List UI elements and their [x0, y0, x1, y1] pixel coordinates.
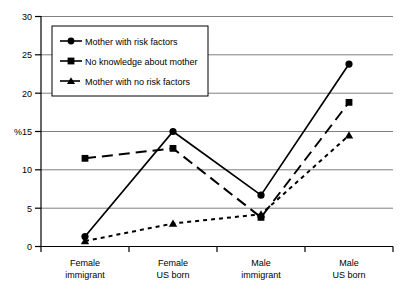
y-axis-title: %: [14, 127, 22, 137]
y-tick-label-0: 0: [27, 242, 32, 252]
circle-marker-icon: [345, 60, 352, 67]
circle-marker-icon: [169, 128, 176, 135]
y-tick-label-10: 10: [22, 165, 32, 175]
x-tick-label-0-line2: immigrant: [65, 270, 105, 280]
y-tick-label-5: 5: [27, 204, 32, 214]
square-marker-icon: [170, 145, 177, 152]
x-tick-label-3-line2: US born: [332, 270, 365, 280]
y-axis-ticks: [35, 17, 41, 247]
y-tick-label-20: 20: [22, 89, 32, 99]
circle-marker-icon: [68, 38, 75, 45]
y-tick-label-15: 15: [22, 127, 32, 137]
y-axis-tick-labels: 30 25 20 15 10 5 0: [22, 12, 32, 252]
legend-label-1: No knowledge about mother: [85, 57, 198, 67]
circle-marker-icon: [257, 192, 264, 199]
x-tick-label-2-line2: immigrant: [241, 270, 281, 280]
square-marker-icon: [82, 155, 89, 162]
square-marker-icon: [346, 99, 353, 106]
line-chart: 30 25 20 15 10 5 0 % Female immigrant Fe…: [0, 0, 400, 289]
legend-label-2: Mother with no risk factors: [85, 77, 191, 87]
x-tick-label-1-line1: Female: [158, 258, 188, 268]
x-axis-tick-labels: Female immigrant Female US born Male imm…: [65, 258, 365, 280]
chart-container: 30 25 20 15 10 5 0 % Female immigrant Fe…: [0, 0, 400, 289]
x-tick-label-1-line2: US born: [156, 270, 189, 280]
square-marker-icon: [68, 58, 75, 65]
y-tick-label-30: 30: [22, 12, 32, 22]
chart-legend: Mother with risk factors No knowledge ab…: [52, 26, 208, 96]
x-tick-label-3-line1: Male: [339, 258, 359, 268]
y-tick-label-25: 25: [22, 50, 32, 60]
x-tick-label-0-line1: Female: [70, 258, 100, 268]
x-axis-ticks: [41, 247, 393, 253]
x-tick-label-2-line1: Male: [251, 258, 271, 268]
legend-label-0: Mother with risk factors: [85, 37, 178, 47]
